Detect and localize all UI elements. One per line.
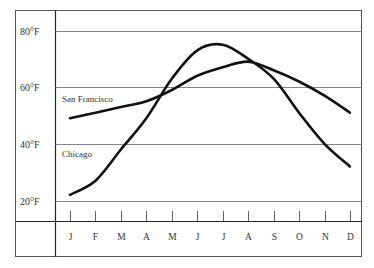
temperature-chart: 20°F40°F60°F80°F JFMAMJJASOND San Franci…	[0, 0, 374, 268]
x-tick-label: O	[296, 232, 303, 242]
y-tick-label: 80°F	[20, 26, 40, 37]
y-tick-label: 20°F	[20, 196, 40, 207]
chart-frame	[16, 11, 362, 257]
y-axis-labels: 20°F40°F60°F80°F	[20, 26, 40, 207]
x-tick-label: M	[117, 232, 126, 242]
series-label-chicago: Chicago	[62, 149, 92, 159]
y-tick-label: 60°F	[20, 82, 40, 93]
x-tick-label: N	[322, 232, 329, 242]
x-tick-label: M	[168, 232, 177, 242]
x-axis-labels: JFMAMJJASOND	[69, 232, 354, 242]
x-tick-label: J	[196, 232, 200, 242]
x-tick-label: J	[222, 232, 226, 242]
x-axis-ticks	[71, 211, 351, 221]
series-line-san-francisco	[70, 62, 350, 119]
x-tick-label: A	[143, 232, 150, 242]
x-tick-label: J	[69, 232, 73, 242]
x-tick-label: S	[272, 232, 277, 242]
x-tick-label: F	[93, 232, 98, 242]
y-tick-label: 40°F	[20, 139, 40, 150]
x-tick-label: A	[245, 232, 252, 242]
x-tick-label: D	[347, 232, 354, 242]
series-label-san-francisco: San Francisco	[62, 94, 113, 104]
series-line-chicago	[70, 44, 350, 195]
